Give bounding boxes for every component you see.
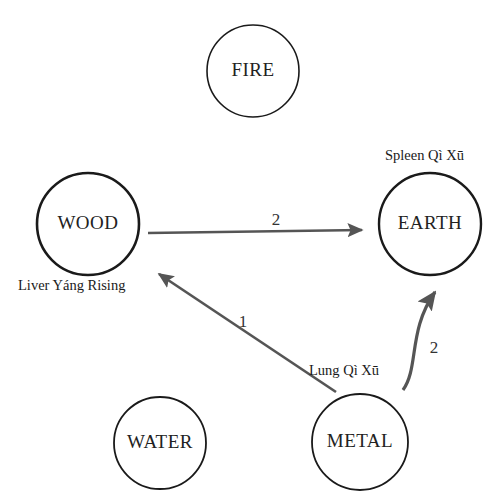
node-wood[interactable]: WOOD [37, 173, 139, 275]
node-earth[interactable]: EARTH [379, 173, 481, 275]
edge-label-metal-earth: 2 [430, 338, 439, 357]
node-label-water: WATER [127, 431, 193, 452]
edge-metal-to-earth: 2 [403, 292, 438, 390]
diagram-canvas: 2 1 2 FIRE WOOD EARTH [0, 0, 497, 501]
pattern-label-lung-qi-xu: Lung Qì Xū [309, 362, 379, 378]
node-metal[interactable]: METAL [312, 394, 408, 490]
five-element-diagram: 2 1 2 FIRE WOOD EARTH [0, 0, 497, 501]
pattern-label-liver-yang-rising: Liver Yáng Rising [18, 277, 125, 293]
node-label-wood: WOOD [57, 212, 118, 233]
pattern-label-spleen-qi-xu: Spleen Qì Xū [385, 147, 464, 163]
node-water[interactable]: WATER [114, 397, 206, 489]
edge-line [148, 230, 362, 233]
edge-wood-to-earth: 2 [148, 210, 362, 233]
edge-label-metal-wood: 1 [239, 312, 248, 331]
node-label-earth: EARTH [398, 212, 463, 233]
node-fire[interactable]: FIRE [207, 25, 299, 117]
node-label-metal: METAL [327, 430, 393, 451]
nodes-layer: FIRE WOOD EARTH WATER METAL [37, 25, 481, 490]
edge-label-wood-earth: 2 [272, 210, 281, 229]
node-label-fire: FIRE [231, 59, 274, 80]
